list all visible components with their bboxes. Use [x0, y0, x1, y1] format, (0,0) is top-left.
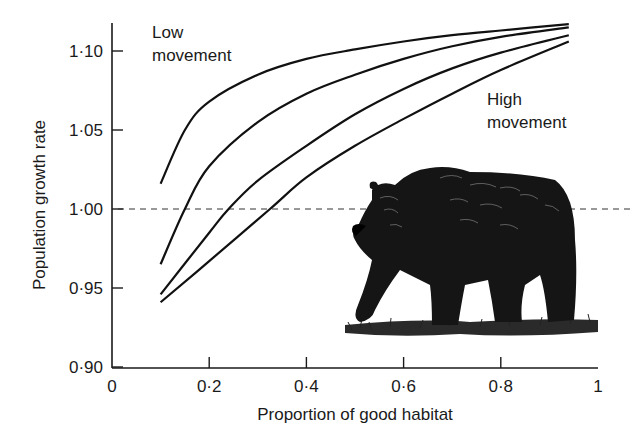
y-tick-label: 1·05	[69, 121, 103, 140]
x-tick-label: 0·2	[197, 377, 222, 396]
y-tick-label: 0·90	[69, 358, 103, 377]
annotation-high-line2: movement	[487, 113, 567, 132]
annotations: Low movement High movement	[152, 23, 567, 132]
y-tick-label: 1·10	[69, 42, 103, 61]
x-tick-label: 0	[107, 377, 116, 396]
annotation-low-line2: movement	[152, 46, 232, 65]
y-ticks: 0·900·951·001·051·10	[69, 42, 123, 377]
x-ticks: 00·20·40·60·81	[107, 357, 602, 396]
bear-illustration	[345, 167, 598, 336]
y-axis-title: Population growth rate	[30, 120, 49, 290]
annotation-low-line1: Low	[152, 23, 184, 42]
x-tick-label: 0·4	[294, 377, 319, 396]
x-axis-title: Proportion of good habitat	[257, 405, 453, 424]
line-chart: 0·900·951·001·051·10 00·20·40·60·81 Low …	[0, 0, 640, 445]
y-tick-label: 1·00	[69, 200, 103, 219]
x-tick-label: 0·6	[391, 377, 416, 396]
x-tick-label: 0·8	[489, 377, 514, 396]
y-tick-label: 0·95	[69, 279, 103, 298]
x-tick-label: 1	[593, 377, 602, 396]
annotation-high-line1: High	[487, 90, 522, 109]
